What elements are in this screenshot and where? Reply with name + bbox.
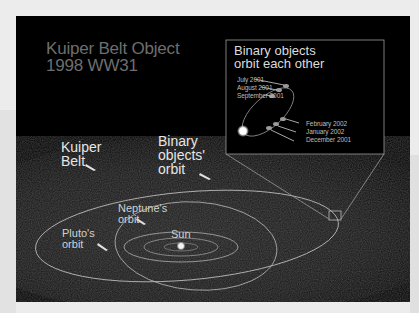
diagram-panel: Kuiper Belt Object 1998 WW31 Binary obje… bbox=[16, 16, 410, 302]
label-kuiper-belt-line-1: Kuiper bbox=[61, 140, 101, 154]
date-label-december-2001: December 2001 bbox=[306, 136, 351, 143]
title-line-1: Kuiper Belt Object bbox=[46, 40, 179, 57]
label-binary-line-3: orbit bbox=[158, 162, 205, 176]
title-line-2: 1998 WW31 bbox=[46, 57, 179, 74]
inset-title: Binary objects orbit each other bbox=[234, 44, 324, 70]
page-margin-left bbox=[0, 110, 16, 313]
date-label-february-2002: February 2002 bbox=[306, 120, 347, 127]
label-binary-line-1: Binary bbox=[158, 134, 205, 148]
date-label-july-2001: July 2001 bbox=[237, 76, 264, 83]
label-neptune-orbit: Neptune's orbit bbox=[118, 203, 167, 225]
label-binary-objects-orbit: Binary objects' orbit bbox=[158, 134, 205, 176]
date-label-january-2002: January 2002 bbox=[306, 128, 344, 135]
label-pluto-line-2: orbit bbox=[62, 239, 95, 250]
label-neptune-line-2: orbit bbox=[118, 214, 167, 225]
inset-title-line-2: orbit each other bbox=[234, 57, 324, 70]
label-kuiper-belt-line-2: Belt bbox=[61, 154, 101, 168]
label-pluto-orbit: Pluto's orbit bbox=[62, 228, 95, 250]
diagram-title: Kuiper Belt Object 1998 WW31 bbox=[46, 40, 179, 74]
date-label-september-2001: September 2001 bbox=[237, 92, 284, 99]
date-label-august-2001: August 2001 bbox=[237, 84, 272, 91]
label-sun: Sun bbox=[171, 229, 191, 240]
label-binary-line-2: objects' bbox=[158, 148, 205, 162]
label-kuiper-belt: Kuiper Belt bbox=[61, 140, 101, 168]
page-margin-right bbox=[410, 155, 419, 313]
